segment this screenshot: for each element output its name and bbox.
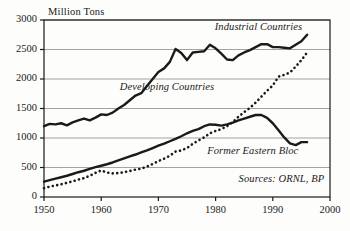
series-label: Industrial Countries xyxy=(215,21,302,32)
coal-consumption-chart: Million Tons 050010001500200025003000 19… xyxy=(0,0,350,231)
chart-canvas xyxy=(0,0,350,231)
y-tick-label: 500 xyxy=(5,161,37,172)
y-tick-label: 1000 xyxy=(5,131,37,142)
series-label: Developing Countries xyxy=(120,81,214,92)
y-tick-label: 2000 xyxy=(5,72,37,83)
series-label: Former Eastern Bloc xyxy=(207,145,298,156)
y-tick-label: 1500 xyxy=(5,102,37,113)
y-tick-label: 0 xyxy=(5,190,37,201)
x-tick-label: 2000 xyxy=(310,204,350,215)
x-tick-label: 1950 xyxy=(24,204,64,215)
y-tick-label: 3000 xyxy=(5,13,37,24)
y-tick-label: 2500 xyxy=(5,43,37,54)
x-tick-label: 1960 xyxy=(81,204,121,215)
source-note: Sources: ORNL, BP xyxy=(239,173,325,184)
x-tick-label: 1980 xyxy=(196,204,236,215)
x-tick-label: 1990 xyxy=(253,204,293,215)
y-axis-title: Million Tons xyxy=(48,6,105,17)
x-tick-label: 1970 xyxy=(138,204,178,215)
